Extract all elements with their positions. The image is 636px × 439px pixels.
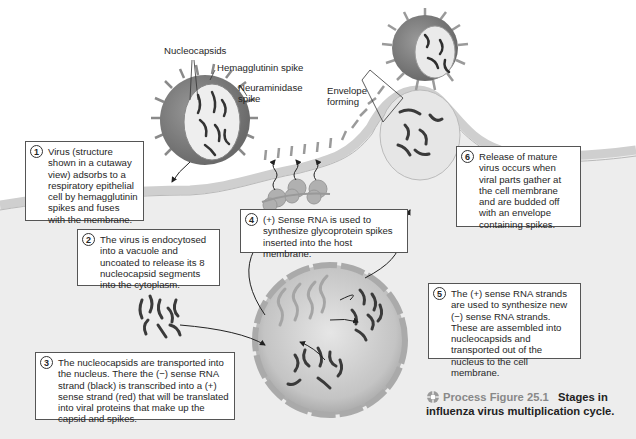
step-number-1: 1 [30, 145, 43, 158]
step-2-text: The virus is endocytosed into a vacuole … [100, 234, 206, 290]
step-3-box: 3 The nucleocapsids are transported into… [35, 352, 235, 420]
label-neuraminidase-line1: Neuraminidase [238, 82, 303, 93]
step-6-text: Release of mature virus occurs when vira… [479, 151, 561, 230]
attaching-virus [151, 64, 258, 165]
step-2-box: 2 The virus is endocytosed into a vacuol… [77, 229, 220, 286]
step-number-5: 5 [433, 287, 446, 300]
step-number-3: 3 [40, 356, 53, 369]
step-3-text: The nucleocapsids are transported into t… [58, 357, 229, 424]
step-6-box: 6 Release of mature virus occurs when vi… [456, 146, 581, 227]
step-number-4: 4 [245, 213, 258, 226]
figure-caption: Process Figure 25.1 Stages in influenza … [426, 390, 636, 418]
process-figure-icon [426, 390, 440, 404]
step-1-text: Virus (structure shown in a cutaway view… [48, 146, 138, 225]
step-number-6: 6 [461, 150, 474, 163]
label-envelope-line1: Envelope [327, 85, 367, 96]
label-envelope-line2: forming [327, 96, 359, 107]
step-5-box: 5 The (+) sense RNA strands are used to … [428, 283, 581, 359]
label-nucleocapsids: Nucleocapsids [164, 45, 226, 56]
step-4-text: (+) Sense RNA is used to synthesize glyc… [263, 214, 393, 259]
budding-virus [380, 90, 460, 180]
step-1-box: 1 Virus (structure shown in a cutaway vi… [25, 141, 144, 221]
step-4-box: 4 (+) Sense RNA is used to synthesize gl… [240, 209, 408, 253]
label-hemagglutinin-spike: Hemagglutinin spike [217, 62, 303, 73]
nucleus [255, 265, 405, 415]
released-virus [382, 8, 468, 90]
step-number-2: 2 [82, 233, 95, 246]
label-neuraminidase-line2: spike [238, 93, 260, 104]
caption-prefix: Process Figure 25.1 [443, 391, 549, 403]
